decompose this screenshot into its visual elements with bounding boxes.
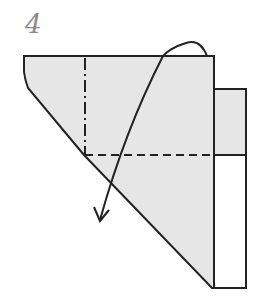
right-strip-lower — [214, 155, 246, 288]
origami-diagram — [0, 0, 255, 307]
folded-paper-shape — [24, 56, 214, 288]
right-strip-upper — [214, 89, 246, 155]
